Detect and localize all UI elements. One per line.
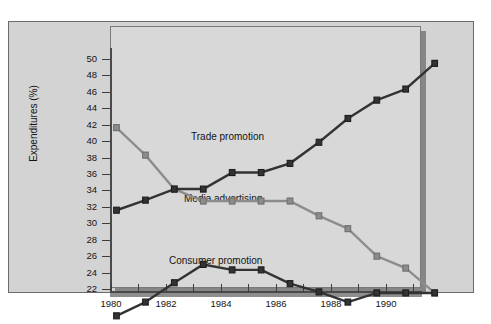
data-point-marker: [432, 290, 438, 296]
y-tick: [102, 273, 110, 274]
y-tick-label: 26: [57, 251, 97, 261]
y-tick: [102, 174, 110, 175]
x-tick-label: 1982: [146, 299, 186, 309]
x-tick-label: 1980: [91, 299, 131, 309]
series-label-consumer-promotion: Consumer promotion: [169, 256, 262, 266]
x-tick: [248, 284, 249, 292]
x-tick: [111, 284, 112, 292]
series-label-trade-promotion: Trade promotion: [191, 132, 264, 142]
x-tick: [413, 284, 414, 292]
y-tick: [102, 240, 110, 241]
x-tick-label: 1990: [366, 299, 406, 309]
y-tick: [102, 256, 110, 257]
y-axis-line: [110, 48, 112, 293]
y-tick-label: 48: [57, 70, 97, 80]
y-axis-title: Expenditures (%): [28, 64, 39, 184]
y-tick: [102, 207, 110, 208]
y-tick: [102, 141, 110, 142]
x-tick-label: 1986: [256, 299, 296, 309]
plot-area: [110, 26, 421, 288]
y-tick: [102, 75, 110, 76]
x-tick: [358, 284, 359, 292]
y-tick-label: 50: [57, 54, 97, 64]
y-tick-label: 24: [57, 268, 97, 278]
y-tick-label: 46: [57, 87, 97, 97]
x-axis-line: [110, 291, 422, 297]
y-tick-label: 34: [57, 185, 97, 195]
y-tick: [102, 190, 110, 191]
figure-frame: Expenditures (%) 22242628303234363840424…: [8, 21, 474, 293]
y-tick: [102, 125, 110, 126]
y-tick-label: 36: [57, 169, 97, 179]
y-tick: [102, 289, 110, 290]
x-tick-label: 1984: [201, 299, 241, 309]
data-point-marker: [432, 290, 438, 296]
y-tick-label: 32: [57, 202, 97, 212]
y-tick-label: 44: [57, 103, 97, 113]
y-tick: [102, 92, 110, 93]
x-tick: [166, 284, 167, 292]
x-tick: [386, 284, 387, 292]
x-tick: [331, 284, 332, 292]
data-point-marker: [432, 60, 438, 66]
y-tick-label: 30: [57, 218, 97, 228]
y-tick-label: 40: [57, 136, 97, 146]
y-tick-label: 42: [57, 120, 97, 130]
x-tick: [221, 284, 222, 292]
y-tick: [102, 108, 110, 109]
x-tick: [276, 284, 277, 292]
y-tick-label: 22: [57, 284, 97, 294]
y-tick: [102, 59, 110, 60]
y-tick: [102, 158, 110, 159]
data-point-marker: [114, 313, 120, 319]
x-tick: [303, 284, 304, 292]
series-label-media-advertising: Media advertising: [184, 194, 262, 204]
y-tick-label: 38: [57, 153, 97, 163]
x-tick-label: 1988: [311, 299, 351, 309]
x-tick: [138, 284, 139, 292]
y-tick: [102, 223, 110, 224]
x-tick: [193, 284, 194, 292]
y-tick-label: 28: [57, 235, 97, 245]
